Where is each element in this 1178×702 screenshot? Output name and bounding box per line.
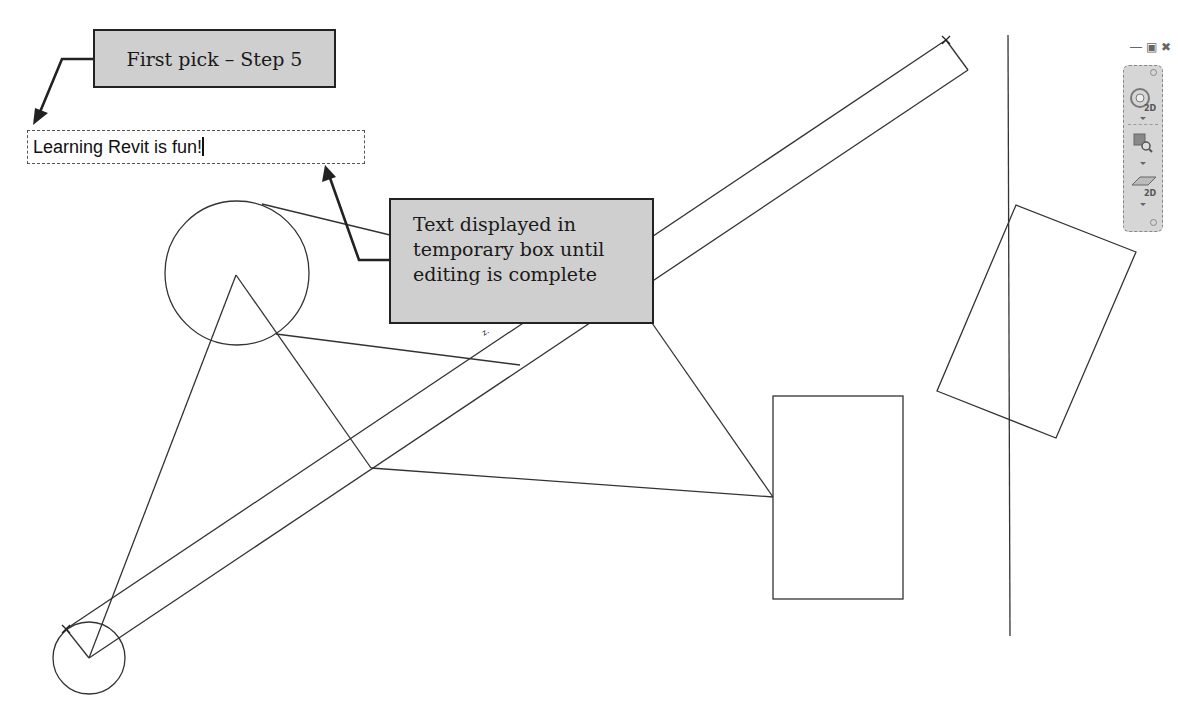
callout-line-2: temporary box until: [413, 237, 652, 262]
rotated-rectangle[interactable]: [937, 205, 1136, 438]
arrowhead-temp-box: [322, 165, 336, 182]
window-controls: — ▣ ✖: [1130, 40, 1171, 54]
text-edit-box[interactable]: Learning Revit is fun!: [27, 130, 365, 164]
dimension-label: z.: [480, 326, 491, 337]
zoom-dropdown[interactable]: [1140, 162, 1146, 165]
wall-line-upper[interactable]: [66, 40, 946, 629]
navbar-divider: [1128, 124, 1158, 125]
svg-text:2D: 2D: [1144, 104, 1157, 113]
steering-wheel-dropdown[interactable]: [1140, 117, 1146, 120]
zoom-button[interactable]: [1128, 130, 1158, 158]
steering-wheel-button[interactable]: 2D: [1128, 86, 1158, 114]
callout-line-3: editing is complete: [413, 262, 652, 287]
close-icon[interactable]: ✖: [1161, 41, 1171, 53]
steering-wheel-icon: 2D: [1128, 86, 1158, 114]
wall-start-cap: [66, 629, 89, 658]
minimize-icon[interactable]: —: [1130, 41, 1142, 53]
line-callout-to-rect[interactable]: [652, 323, 773, 497]
vertical-reference-line[interactable]: [1008, 35, 1010, 636]
navbar-settings-icon[interactable]: [1150, 219, 1157, 226]
zoom-region-icon: [1128, 130, 1158, 158]
plan-2d-icon: 2D: [1128, 171, 1158, 199]
callout-temporary-box: Text displayed in temporary box until ed…: [389, 198, 654, 324]
pan-2d-dropdown[interactable]: [1140, 203, 1146, 206]
navbar-options-icon[interactable]: [1150, 69, 1157, 76]
line-to-rect[interactable]: [371, 468, 773, 497]
leader-temp-box: [330, 178, 389, 260]
navigation-bar: 2D 2D: [1123, 65, 1163, 232]
triangle-edge-right[interactable]: [236, 275, 371, 468]
arrowhead-first-pick: [33, 108, 48, 125]
callout-first-pick: First pick – Step 5: [93, 29, 336, 88]
triangle-edge-left[interactable]: [89, 275, 236, 658]
callout-line-1: Text displayed in: [413, 212, 652, 237]
restore-icon[interactable]: ▣: [1146, 41, 1157, 53]
large-circle[interactable]: [165, 201, 309, 345]
line-circle-top[interactable]: [262, 204, 390, 235]
leader-first-pick: [40, 59, 93, 112]
text-caret: [202, 137, 204, 156]
wall-end-cap: [946, 40, 968, 70]
rectangle[interactable]: [773, 396, 903, 599]
text-edit-value[interactable]: Learning Revit is fun!: [33, 137, 202, 157]
pan-2d-button[interactable]: 2D: [1128, 171, 1158, 199]
drawing-canvas[interactable]: z.: [0, 0, 1178, 702]
svg-text:2D: 2D: [1144, 189, 1157, 198]
callout-first-pick-text: First pick – Step 5: [127, 48, 303, 70]
